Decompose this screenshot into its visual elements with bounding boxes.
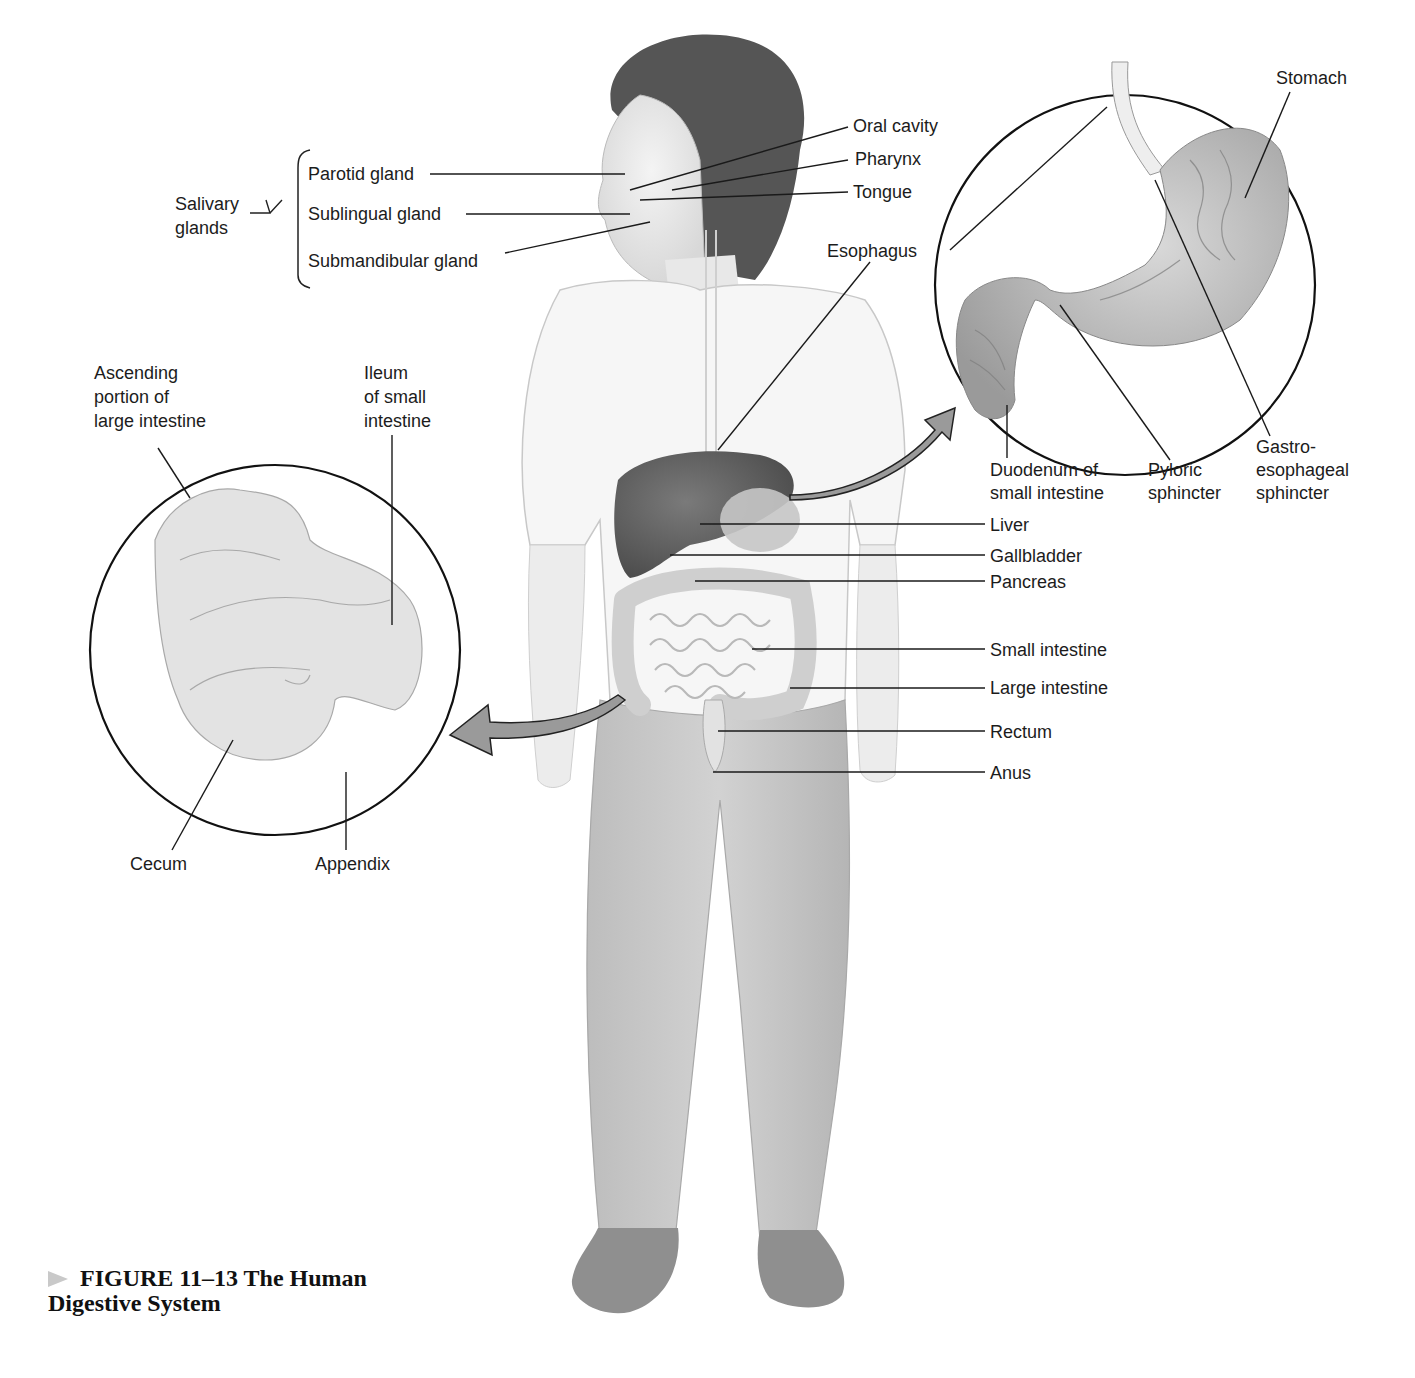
salivary-glands-label-2: glands: [175, 216, 228, 240]
label-ileum-1: Ileum: [364, 361, 408, 385]
label-gastro-1: Gastro-: [1256, 435, 1316, 459]
label-large-intestine: Large intestine: [990, 676, 1108, 700]
label-tongue: Tongue: [853, 180, 912, 204]
jeans: [587, 700, 850, 1240]
intestine-inset: [90, 465, 460, 835]
human-figure: [522, 34, 905, 1313]
label-small-intestine: Small intestine: [990, 638, 1107, 662]
stomach-inset: [935, 62, 1315, 475]
label-duodenum-2: small intestine: [990, 481, 1104, 505]
label-pharynx: Pharynx: [855, 147, 921, 171]
label-stomach: Stomach: [1276, 66, 1347, 90]
label-esophagus: Esophagus: [827, 239, 917, 263]
label-pyloric-1: Pyloric: [1148, 458, 1202, 482]
label-parotid-gland: Parotid gland: [308, 162, 414, 186]
left-shoe: [572, 1228, 679, 1313]
figure-caption: FIGURE 11–13 The Human Digestive System: [48, 1266, 367, 1316]
caption-line-1: FIGURE 11–13 The Human: [80, 1265, 367, 1291]
label-ascending-3: large intestine: [94, 409, 206, 433]
label-sublingual-gland: Sublingual gland: [308, 202, 441, 226]
salivary-glands-label-1: Salivary: [175, 192, 239, 216]
label-anus: Anus: [990, 761, 1031, 785]
label-pancreas: Pancreas: [990, 570, 1066, 594]
label-pyloric-2: sphincter: [1148, 481, 1221, 505]
label-ileum-2: of small: [364, 385, 426, 409]
left-arm: [528, 545, 585, 788]
label-liver: Liver: [990, 513, 1029, 537]
label-cecum: Cecum: [130, 852, 187, 876]
label-submandibular-gland: Submandibular gland: [308, 249, 478, 273]
label-ascending-1: Ascending: [94, 361, 178, 385]
caption-triangle-icon: [48, 1271, 68, 1287]
label-rectum: Rectum: [990, 720, 1052, 744]
salivary-pointer: [250, 200, 282, 213]
stomach-in-body: [720, 488, 800, 552]
label-duodenum-1: Duodenum of: [990, 458, 1098, 482]
label-ascending-2: portion of: [94, 385, 169, 409]
label-ileum-3: intestine: [364, 409, 431, 433]
label-oral-cavity: Oral cavity: [853, 114, 938, 138]
label-gastro-3: sphincter: [1256, 481, 1329, 505]
label-appendix: Appendix: [315, 852, 390, 876]
right-shoe: [758, 1230, 845, 1307]
label-gastro-2: esophageal: [1256, 458, 1349, 482]
label-gallbladder: Gallbladder: [990, 544, 1082, 568]
caption-line-2: Digestive System: [48, 1291, 367, 1316]
digestive-system-figure: Salivary glands Parotid gland Sublingual…: [0, 0, 1415, 1378]
